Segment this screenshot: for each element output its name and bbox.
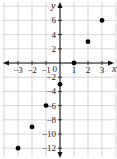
scatter-plot: −3−2−1123642−2−4−6−8−10−120xy — [0, 0, 117, 159]
y-tick-label: −12 — [42, 143, 56, 153]
y-axis-label: y — [50, 0, 56, 11]
y-tick-label: −4 — [46, 86, 56, 96]
x-tick-label: −3 — [13, 65, 23, 75]
origin-label: 0 — [53, 64, 58, 74]
x-tick-label: 2 — [86, 65, 91, 75]
y-tick-label: −8 — [46, 115, 56, 125]
x-tick-label: 1 — [72, 65, 77, 75]
data-point — [58, 82, 63, 87]
y-tick-label: 6 — [52, 15, 57, 25]
data-point — [44, 103, 49, 108]
x-tick-label: −2 — [27, 65, 37, 75]
x-axis-label: x — [111, 63, 117, 74]
y-tick-label: 4 — [52, 30, 57, 40]
data-point — [72, 61, 77, 66]
y-arrow-down-icon — [58, 152, 63, 158]
data-point — [100, 18, 105, 23]
y-tick-label: 2 — [52, 44, 57, 54]
y-tick-label: −10 — [42, 129, 57, 139]
y-arrow-up-icon — [58, 2, 63, 8]
x-tick-label: 3 — [100, 65, 105, 75]
data-point — [16, 146, 21, 151]
data-point — [30, 125, 35, 130]
data-point — [86, 39, 91, 44]
